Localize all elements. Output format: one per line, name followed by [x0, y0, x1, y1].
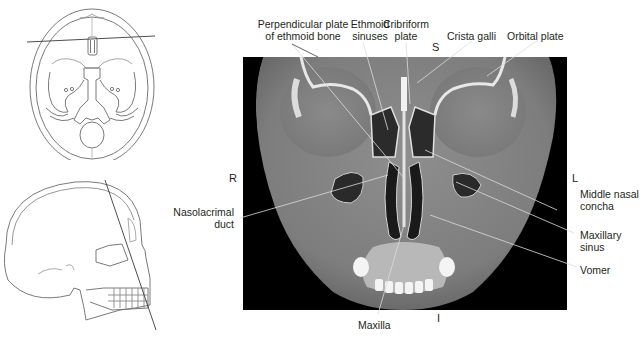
label-maxillary-sinus: Maxillary sinus	[580, 229, 621, 253]
orientation-right: R	[229, 172, 237, 184]
label-crista-galli: Crista galli	[447, 30, 496, 42]
axial-skull-diagram	[0, 0, 170, 160]
label-maxilla: Maxilla	[358, 319, 391, 331]
label-orbital-plate: Orbital plate	[507, 30, 564, 42]
coronal-ct-image	[243, 57, 567, 310]
label-vomer: Vomer	[580, 264, 610, 276]
label-cribriform-plate: Cribriform plate	[378, 18, 434, 42]
sagittal-skull-diagram	[0, 170, 170, 338]
orientation-left: L	[572, 172, 578, 184]
orientation-inferior: I	[437, 312, 440, 324]
sagittal-scan-line	[105, 180, 156, 330]
label-nasolacrimal-duct: Nasolacrimal duct	[160, 206, 234, 230]
orientation-superior: S	[432, 41, 439, 53]
label-middle-nasal-concha: Middle nasal concha	[580, 188, 639, 212]
